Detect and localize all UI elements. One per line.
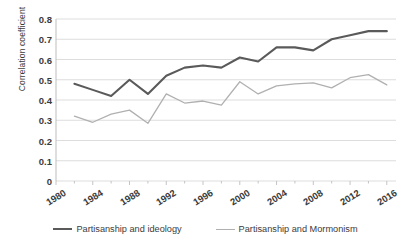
y-axis-tick-label: 0.7	[22, 34, 52, 45]
series-line-0	[74, 31, 386, 96]
legend-line-icon	[53, 228, 72, 230]
y-axis-tick-label: 0.3	[22, 115, 52, 126]
legend-entry[interactable]: Partisanship and ideology	[53, 224, 181, 234]
y-axis-tick-label: 0	[22, 176, 52, 187]
legend-label: Partisanship and ideology	[76, 224, 181, 234]
x-axis-tick-label: 2016	[371, 187, 399, 210]
x-axis-tick-labels: 1980198419881992199620002004200820122016	[56, 181, 401, 221]
legend-label: Partisanship and Mormonism	[239, 224, 358, 234]
y-axis-tick-label: 0.1	[22, 155, 52, 166]
data-series-group	[74, 31, 386, 123]
x-axis-tick-label: 1992	[150, 187, 178, 210]
chart-legend: Partisanship and ideologyPartisanship an…	[0, 224, 411, 234]
line-chart: Correlation coefficient 0.80.70.60.50.40…	[0, 0, 411, 247]
x-axis-tick-label: 1984	[77, 187, 105, 210]
plot-area	[56, 19, 396, 181]
series-line-1	[74, 75, 386, 124]
y-axis-tick-label: 0.2	[22, 135, 52, 146]
x-axis-tick-label: 1996	[187, 187, 215, 210]
x-axis-tick-label: 1988	[113, 187, 141, 210]
x-axis-tick-label: 1980	[40, 187, 68, 210]
legend-line-icon	[216, 229, 235, 230]
y-axis-tick-label: 0.6	[22, 54, 52, 65]
x-axis-tick-label: 2012	[334, 187, 362, 210]
y-axis-tick-labels: 0.80.70.60.50.40.30.20.10	[22, 14, 52, 186]
plot-svg	[56, 19, 396, 181]
legend-entry[interactable]: Partisanship and Mormonism	[216, 224, 358, 234]
x-axis-tick-label: 2008	[297, 187, 325, 210]
x-axis-tick-label: 2004	[260, 187, 288, 210]
y-axis-tick-label: 0.4	[22, 95, 52, 106]
x-axis-tick-label: 2000	[224, 187, 252, 210]
y-axis-tick-label: 0.8	[22, 14, 52, 25]
y-axis-tick-label: 0.5	[22, 74, 52, 85]
